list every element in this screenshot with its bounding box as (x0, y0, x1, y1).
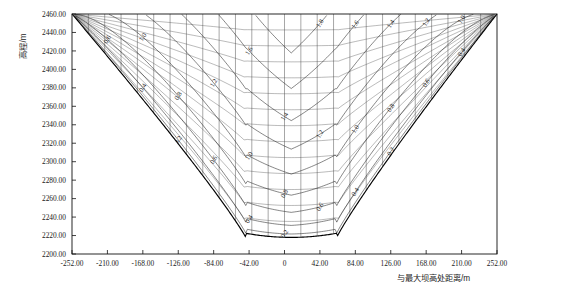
x-tick-label: -84.00 (204, 259, 223, 268)
contour-line (109, 14, 473, 174)
contour-label: 1.4 (279, 110, 290, 121)
contour-label: 0.8 (279, 187, 290, 198)
x-tick-label: 126.00 (381, 259, 402, 268)
y-tick-label: 2380.00 (42, 83, 66, 92)
x-tick-label: -126.00 (167, 259, 190, 268)
contour-label: 1.4 (385, 18, 396, 29)
contour-label: 1.2 (421, 17, 431, 28)
y-tick-label: 2280.00 (42, 176, 66, 185)
x-tick-label: 210.00 (451, 259, 472, 268)
y-tick-label: 2240.00 (42, 213, 66, 222)
x-tick-label: 168.00 (416, 259, 437, 268)
contour-label: 0.4 (244, 213, 255, 224)
y-tick-label: 2320.00 (42, 139, 66, 148)
chart-canvas: 0.20.20.20.40.40.40.40.60.60.60.60.80.80… (0, 0, 567, 300)
y-tick-label: 2200.00 (42, 250, 66, 259)
y-axis-title: 高程/m (18, 33, 28, 58)
x-tick-label: -210.00 (96, 259, 119, 268)
contour-label: 1.2 (314, 129, 324, 140)
contour-label: 1.8 (314, 17, 325, 28)
y-tick-label: 2440.00 (42, 28, 66, 37)
y-tick-label: 2460.00 (42, 10, 66, 19)
y-tick-label: 2340.00 (42, 120, 66, 129)
x-tick-label: 84.00 (347, 259, 364, 268)
x-tick-label: -252.00 (61, 259, 84, 268)
valley-body: 0.20.20.20.40.40.40.40.60.60.60.60.80.80… (74, 13, 496, 239)
x-tick-label: 42.00 (312, 259, 329, 268)
contour-label: 0.4 (350, 186, 361, 197)
contour-label: 1.0 (244, 150, 255, 161)
contour-label: 1.6 (350, 18, 361, 29)
x-tick-label: 0 (283, 259, 287, 268)
contour-label: 0.6 (314, 201, 325, 212)
y-tick-label: 2360.00 (42, 102, 66, 111)
y-tick-label: 2400.00 (42, 65, 66, 74)
x-tick-label: -42.00 (240, 259, 259, 268)
contour-label: 0.6 (208, 154, 219, 165)
y-tick-label: 2420.00 (42, 47, 66, 56)
contour-chart-figure: 0.20.20.20.40.40.40.40.60.60.60.60.80.80… (0, 0, 567, 300)
y-tick-label: 2220.00 (42, 231, 66, 240)
contour-line (182, 14, 401, 120)
contour-line (219, 15, 364, 89)
x-axis-title: 与最大坝高处距离/m (397, 273, 470, 283)
x-tick-label: -168.00 (131, 259, 154, 268)
y-tick-label: 2260.00 (42, 194, 66, 203)
y-tick-label: 2300.00 (42, 157, 66, 166)
x-tick-label: 252.00 (487, 259, 508, 268)
